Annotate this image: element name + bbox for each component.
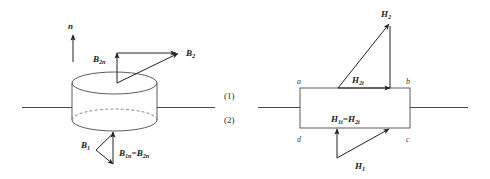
corner-label-c: c [406,135,410,144]
corner-label-b: b [406,77,410,86]
vector-B2-arrow [117,54,178,84]
region-1-label: (1) [224,91,235,101]
cylinder-bottom-back-arc-dashed [72,109,157,120]
vector-H1t-equals-H2t-label: H1t=H2t [330,114,360,125]
vector-B2-label: B2 [185,48,195,59]
vector-B1-arrow [96,133,114,150]
vector-H1-arrow [337,129,389,158]
vector-B1n-equals-B2n-label: B1n=B2n [118,148,150,159]
cylinder-bottom-front-arc [72,120,157,131]
physics-figure: (1) (2) n B2n B2 [0,0,490,179]
corner-label-a: a [297,77,301,86]
cylinder-top-ellipse [72,72,157,94]
figure-canvas: (1) (2) n B2n B2 [0,0,490,179]
vector-H2t-label: H2t [351,75,364,86]
vector-B1-bottom-connector [96,150,113,164]
vector-B2n-label: B2n [92,54,106,65]
vector-B1-label: B1 [80,140,90,151]
corner-label-d: d [297,135,302,144]
region-2-label: (2) [224,115,235,125]
vector-H1-label: H1 [354,161,365,172]
normal-vector-n-label: n [68,21,73,31]
vector-H2-label: H2 [380,9,391,20]
